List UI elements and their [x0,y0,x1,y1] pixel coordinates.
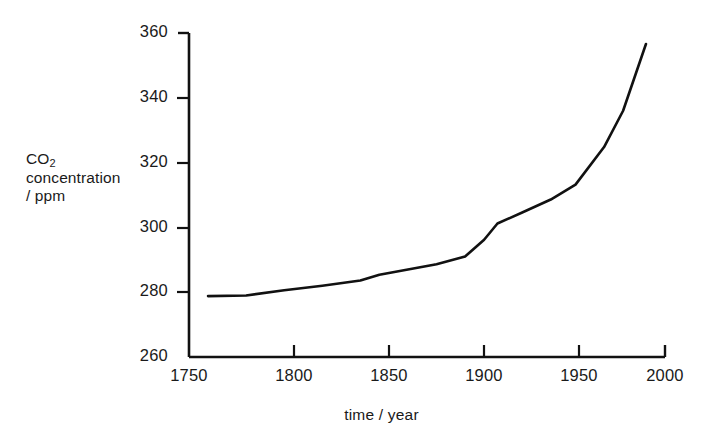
x-axis-title: time / year [344,406,419,424]
co2-data-line [208,44,646,296]
y-axis-title: CO2 concentration / ppm [26,150,176,205]
y-tick-label-260: 260 [110,346,168,365]
y-axis-title-base: CO [26,150,49,167]
y-tick-label-280: 280 [110,281,168,300]
y-axis-title-line-3: / ppm [26,187,176,205]
co2-concentration-chart: 360 340 320 300 280 260 1750 1800 1850 1… [0,0,719,447]
x-axis-ticks [294,345,579,357]
y-axis-title-line-1: CO2 [26,150,176,169]
x-axis-title-wrapper: time / year [0,406,719,424]
x-tick-label-1900: 1900 [449,366,519,385]
y-tick-label-300: 300 [110,217,168,236]
x-tick-label-1950: 1950 [544,366,614,385]
y-axis-ticks [177,98,189,292]
x-tick-label-1800: 1800 [259,366,329,385]
y-tick-label-360: 360 [110,22,168,41]
chart-axes [178,33,665,357]
x-tick-label-1850: 1850 [354,366,424,385]
y-axis-title-line-2: concentration [26,169,176,187]
x-tick-label-2000: 2000 [630,366,700,385]
y-axis-title-subscript: 2 [49,157,55,169]
x-tick-label-1750: 1750 [154,366,224,385]
y-tick-label-340: 340 [110,87,168,106]
